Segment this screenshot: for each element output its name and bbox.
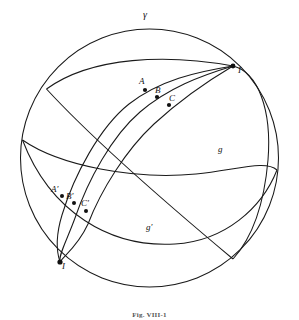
label-point-b: B <box>155 86 161 95</box>
great-circle-g-prime-back <box>23 140 278 175</box>
intersection-dot-a <box>143 88 147 92</box>
figure-container: γ I A B C A′ B′ C′ g g′ I Fig. VIII-1 <box>0 0 299 320</box>
geodesic-curve-b <box>60 66 233 262</box>
label-point-a-prime: A′ <box>51 185 58 194</box>
sphere-diagram-svg <box>0 0 299 320</box>
intersection-dot-b <box>155 95 159 99</box>
label-point-c: C <box>169 94 175 103</box>
intersection-dot-c <box>167 103 171 107</box>
label-point-c-prime: C′ <box>81 199 89 208</box>
label-great-circle-g-prime: g′ <box>146 223 152 232</box>
intersection-dot-b-prime <box>72 201 76 205</box>
label-gamma: γ <box>143 10 147 20</box>
label-point-b-prime: B′ <box>66 192 73 201</box>
label-pole-top-i: I <box>238 66 241 75</box>
intersection-dot-c-prime <box>84 209 88 213</box>
label-great-circle-g: g <box>218 145 223 154</box>
figure-caption: Fig. VIII-1 <box>0 311 299 319</box>
intersection-dot-a-prime <box>60 194 64 198</box>
label-pole-bottom-i: I <box>62 262 65 271</box>
geodesic-curve-c <box>60 66 233 262</box>
pole-dot-top <box>231 64 236 69</box>
label-point-a: A <box>139 77 145 86</box>
